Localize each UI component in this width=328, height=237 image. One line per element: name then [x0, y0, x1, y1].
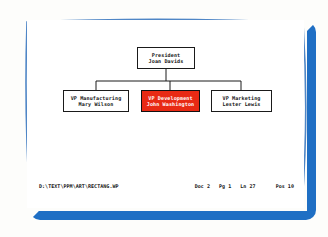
org-node-president[interactable]: President Joan Davids: [137, 47, 195, 69]
status-fields: Doc 2 Pg 1 Ln 27 Pos 10: [195, 183, 294, 189]
org-node-vp-development[interactable]: VP Development John Washington: [141, 90, 200, 112]
status-page: Pg 1: [219, 183, 231, 189]
org-node-name: Joan Davids: [149, 58, 184, 64]
status-file-path: D:\TEXT\PPM\ART\RECTANG.WP: [39, 183, 119, 189]
org-node-name: Mary Wilson: [79, 101, 114, 107]
org-node-vp-marketing[interactable]: VP Marketing Lester Lewis: [211, 90, 272, 112]
status-line: Ln 27: [240, 183, 255, 189]
org-node-name: John Washington: [147, 101, 195, 107]
screenshot-root: President Joan Davids VP Manufacturing M…: [0, 0, 328, 237]
status-position: Pos 10: [276, 183, 294, 189]
status-bar: D:\TEXT\PPM\ART\RECTANG.WP Doc 2 Pg 1 Ln…: [27, 183, 304, 192]
status-doc: Doc 2: [195, 183, 210, 189]
org-node-vp-manufacturing[interactable]: VP Manufacturing Mary Wilson: [63, 90, 129, 112]
org-chart: President Joan Davids VP Manufacturing M…: [27, 20, 304, 170]
crt-screen: President Joan Davids VP Manufacturing M…: [27, 20, 304, 208]
org-node-name: Lester Lewis: [222, 101, 260, 107]
